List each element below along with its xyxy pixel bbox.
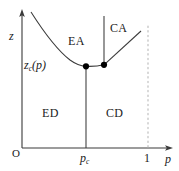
critical-point-pc-dot <box>83 63 89 69</box>
critical-curve-label-suffix: (p) <box>32 58 46 72</box>
y-axis-label: z <box>9 30 14 42</box>
origin-label: O <box>12 148 20 159</box>
x-axis <box>22 145 173 151</box>
region-label-cd: CD <box>106 107 123 119</box>
x-tick-label-pc: pc <box>80 152 89 165</box>
region-label-ed: ED <box>42 107 59 119</box>
x-tick-pc-sub: c <box>86 157 89 166</box>
phase-diagram-figure: z zc(p) EA CA ED CD O pc 1 p <box>0 0 179 171</box>
region-label-ca: CA <box>110 22 127 34</box>
diagram-canvas <box>0 0 179 171</box>
critical-point-ca-dot <box>101 62 107 68</box>
x-tick-label-one: 1 <box>144 152 150 164</box>
x-axis-label: p <box>165 153 171 165</box>
critical-curve-label: zc(p) <box>24 59 46 72</box>
region-label-ea: EA <box>68 35 85 47</box>
y-axis <box>19 9 25 148</box>
ca-diagonal-boundary <box>104 31 141 65</box>
